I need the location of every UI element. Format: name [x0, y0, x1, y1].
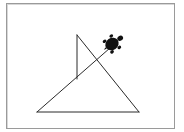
- turtle-icon: [99, 29, 128, 56]
- pen-trail: [37, 35, 139, 112]
- pen-segment: [37, 48, 110, 112]
- turtle-drawing: [0, 0, 184, 132]
